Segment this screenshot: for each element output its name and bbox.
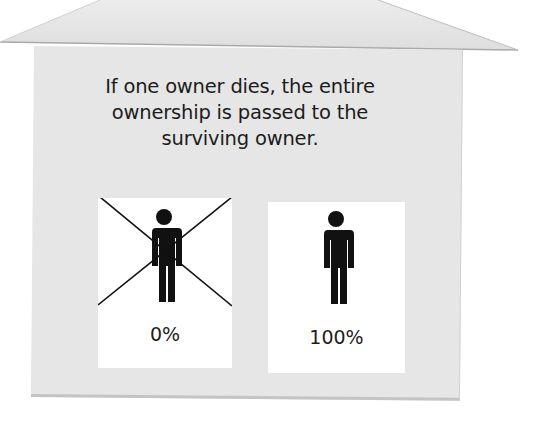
surviving-owner-card: 100% xyxy=(268,202,405,373)
caption-line-1: If one owner dies, the entire xyxy=(50,74,430,100)
caption-line-3: surviving owner. xyxy=(50,126,430,152)
cross-out-icon xyxy=(98,198,232,310)
person-icon xyxy=(316,210,356,310)
house-diagram: If one owner dies, the entire ownership … xyxy=(0,0,538,421)
surviving-share-label: 100% xyxy=(268,326,405,348)
caption-line-2: ownership is passed to the xyxy=(50,100,430,126)
caption-text: If one owner dies, the entire ownership … xyxy=(50,74,430,152)
deceased-owner-card: 0% xyxy=(98,198,232,368)
deceased-share-label: 0% xyxy=(98,323,232,345)
